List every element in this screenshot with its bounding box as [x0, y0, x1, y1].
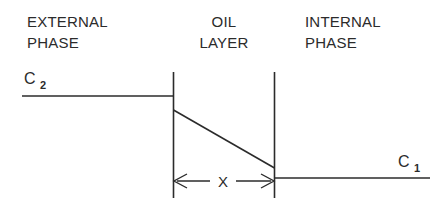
c1-subscript: 1	[414, 162, 420, 174]
external-phase-label-line2: PHASE	[27, 34, 79, 51]
c1-symbol: C	[398, 153, 410, 170]
external-phase-label-line1: EXTERNAL	[27, 13, 108, 30]
internal-phase-label-line1: INTERNAL	[305, 13, 381, 30]
thickness-dimension-line: X	[174, 173, 274, 190]
c2-concentration-label: C 2	[24, 70, 46, 91]
oil-layer-concentration-gradient-line	[174, 110, 275, 168]
oil-layer-label-line2: LAYER	[199, 34, 248, 51]
thickness-label: X	[218, 173, 228, 190]
oil-layer-label: OIL LAYER	[199, 13, 248, 51]
c2-symbol: C	[24, 70, 36, 87]
external-phase-label: EXTERNAL PHASE	[27, 13, 108, 51]
oil-layer-label-line1: OIL	[212, 13, 237, 30]
concentration-profile-diagram: EXTERNAL PHASE OIL LAYER INTERNAL PHASE …	[0, 0, 442, 209]
c2-subscript: 2	[40, 79, 46, 91]
c1-concentration-label: C 1	[398, 153, 420, 174]
internal-phase-label: INTERNAL PHASE	[305, 13, 381, 51]
internal-phase-label-line2: PHASE	[305, 34, 357, 51]
diagram-canvas: EXTERNAL PHASE OIL LAYER INTERNAL PHASE …	[0, 0, 442, 209]
